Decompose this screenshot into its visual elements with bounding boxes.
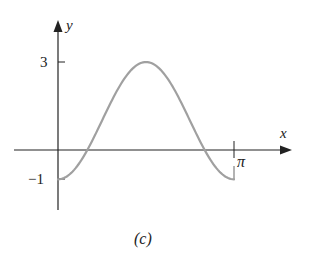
y-axis-label: y: [64, 17, 73, 33]
x-axis-label: x: [279, 125, 287, 141]
chart: y x 3 −1 π (c): [0, 0, 309, 264]
x-axis-arrow-icon: [280, 146, 292, 155]
y-tick-label-3: 3: [40, 54, 48, 70]
y-axis-arrow-icon: [54, 20, 63, 32]
chart-caption: (c): [134, 230, 152, 248]
x-tick-label-pi: π: [237, 153, 246, 170]
function-curve: [58, 62, 234, 179]
y-tick-label-minus1: −1: [28, 171, 44, 187]
